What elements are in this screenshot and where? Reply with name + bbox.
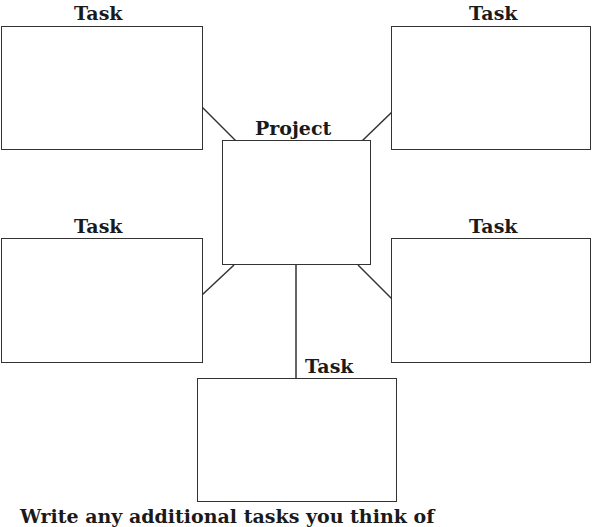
task-label-top-left: Task: [74, 2, 123, 24]
task-box-bottom-center[interactable]: [197, 378, 397, 502]
task-label-middle-left: Task: [74, 215, 123, 237]
connector-middle-right: [358, 265, 392, 299]
connector-middle-left: [202, 265, 234, 295]
connector-top-left: [202, 107, 236, 141]
project-label: Project: [255, 117, 331, 139]
task-box-middle-left[interactable]: [1, 238, 203, 363]
connector-top-right: [362, 112, 392, 141]
task-box-middle-right[interactable]: [391, 238, 591, 363]
task-label-bottom-center: Task: [305, 355, 354, 377]
project-box[interactable]: [222, 140, 371, 265]
task-box-top-left[interactable]: [1, 26, 203, 150]
instruction-text: Write any additional tasks you think of: [20, 505, 434, 527]
task-label-middle-right: Task: [469, 215, 518, 237]
task-label-top-right: Task: [469, 2, 518, 24]
task-box-top-right[interactable]: [391, 26, 591, 150]
